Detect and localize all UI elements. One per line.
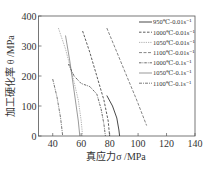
series-line: [53, 79, 63, 136]
x-tick-label: 100: [131, 138, 146, 149]
series-line: [68, 64, 105, 136]
legend: 950℃-0.01s⁻¹1000℃-0.01s⁻¹1050℃-0.01s⁻¹11…: [139, 18, 195, 86]
y-tick-label: 400: [22, 11, 37, 22]
chart: 0100200300400 406080100120140 真应力σ /MPa …: [0, 0, 214, 183]
legend-label: 1000℃-0.1s⁻¹: [153, 59, 192, 66]
legend-label: 1000℃-0.01s⁻¹: [153, 29, 195, 36]
legend-label: 1050℃-0.01s⁻¹: [153, 39, 195, 46]
y-axis-label: 加工硬化率 θ /MPa: [4, 35, 16, 117]
x-axis: 406080100120140: [48, 133, 203, 149]
y-tick-label: 300: [22, 41, 37, 52]
x-tick-label: 60: [76, 138, 86, 149]
y-tick-label: 0: [32, 131, 37, 142]
x-tick-label: 140: [188, 138, 203, 149]
series-line: [107, 28, 147, 126]
x-tick-label: 80: [105, 138, 115, 149]
legend-label: 1100℃-0.01s⁻¹: [153, 49, 195, 56]
x-tick-label: 40: [48, 138, 58, 149]
y-tick-label: 200: [22, 71, 37, 82]
series-line: [66, 36, 80, 137]
y-tick-label: 100: [22, 101, 37, 112]
legend-label: 1100℃-0.1s⁻¹: [153, 80, 191, 87]
series-line: [83, 31, 110, 136]
series-line: [107, 96, 120, 137]
legend-label: 1050℃-0.1s⁻¹: [153, 69, 192, 76]
x-tick-label: 120: [159, 138, 174, 149]
series-group: [53, 28, 147, 136]
series-line: [58, 28, 82, 136]
legend-label: 950℃-0.01s⁻¹: [153, 18, 192, 25]
x-axis-label: 真应力σ /MPa: [86, 150, 146, 162]
